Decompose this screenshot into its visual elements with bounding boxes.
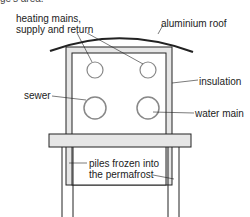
label-insulation: insulation [199,76,241,87]
water-main-pipe [137,97,159,119]
label-aluminium-roof: aluminium roof [161,18,227,29]
label-piles-1: piles frozen into [89,158,159,169]
base-slab [49,134,191,147]
heating-supply-pipe [87,62,103,78]
label-sewer: sewer [24,90,51,101]
label-piles-2: the permafrost [89,169,153,180]
sewer-pipe [84,97,106,119]
label-water-main: water main [195,108,244,119]
label-heating-mains-2: supply and return [16,24,93,35]
label-heating-mains-1: heating mains, [16,13,81,24]
heating-return-pipe [140,62,156,78]
